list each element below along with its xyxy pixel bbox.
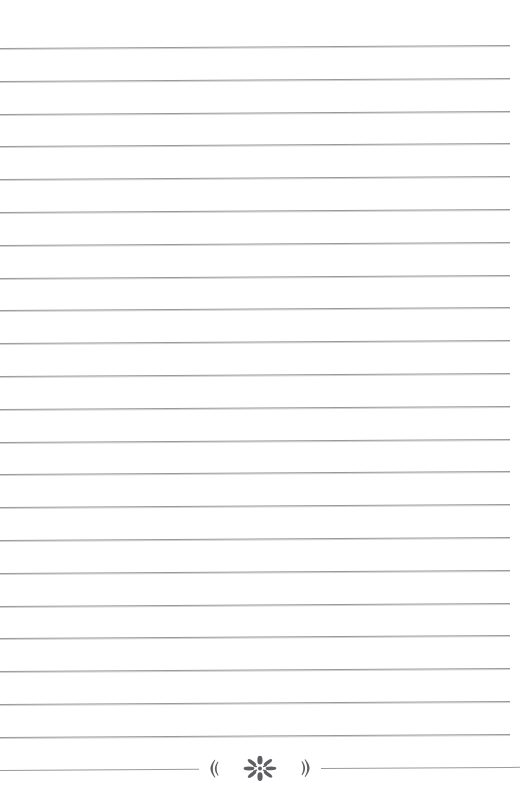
ruled-line [0,274,510,278]
ruled-line [0,602,510,606]
divider-rule-right [321,766,520,768]
ruled-line [0,209,510,213]
ruled-line [0,45,510,49]
ruled-line [0,668,510,672]
ruled-line [0,373,510,377]
ruled-line [0,570,510,574]
ruled-lines-layer [0,0,520,800]
divider-rule-left [0,768,199,770]
ruled-line [0,78,510,82]
ruled-line [0,471,510,475]
ruled-line [0,242,510,246]
ruled-line [0,307,510,311]
ruled-line [0,406,510,410]
ruled-line [0,504,510,508]
ruled-line [0,537,510,541]
stationery-page: Lined Writing Page [0,0,520,800]
ruled-line [0,701,510,705]
ruled-line [0,734,510,738]
ruled-line [0,340,510,344]
ruled-line [0,110,510,114]
ruled-line [0,635,510,639]
floral-rosette-icon [200,755,320,782]
floral-divider [0,752,520,785]
ruled-line [0,176,510,180]
ruled-line [0,438,510,442]
ruled-line [0,143,510,147]
